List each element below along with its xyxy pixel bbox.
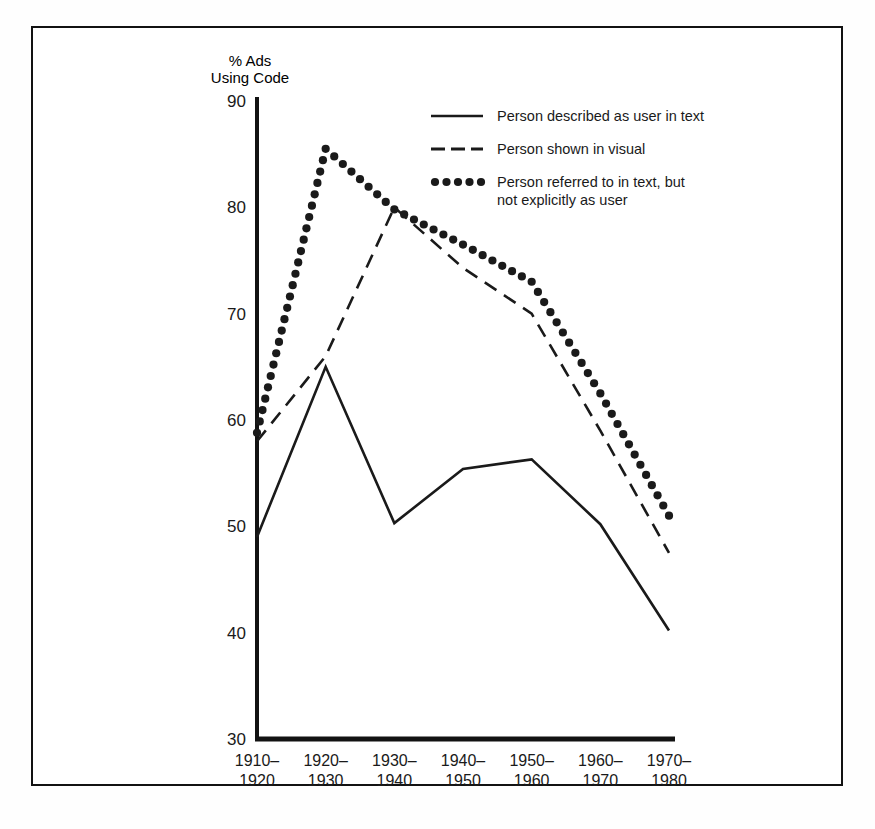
series-dot — [429, 225, 437, 233]
series-dot — [420, 220, 428, 228]
figure-frame: % Ads Using Code 30405060708090 1910–192… — [31, 26, 843, 786]
y-tick-50: 50 — [227, 517, 246, 536]
legend-label: not explicitly as user — [497, 192, 628, 208]
series-dot — [261, 395, 269, 403]
series-dot — [400, 210, 408, 218]
series-dot — [665, 512, 673, 520]
series-dot — [559, 328, 567, 336]
plot-canvas: % Ads Using Code 30405060708090 1910–192… — [33, 28, 845, 788]
x-tick-label-line: 1920– — [303, 752, 348, 769]
x-tick-0: 1910–1920 — [235, 752, 280, 788]
x-tick-label-line: 1930– — [372, 752, 417, 769]
series-dot — [508, 267, 516, 275]
series-1-dashed — [257, 207, 669, 553]
series-dot — [291, 270, 299, 278]
legend-dot — [442, 178, 450, 186]
chart-legend: Person described as user in textPerson s… — [431, 108, 704, 208]
series-dot — [648, 481, 656, 489]
series-dot — [280, 315, 288, 323]
series-dot — [278, 326, 286, 334]
series-dot — [390, 205, 398, 213]
series-dot — [347, 167, 355, 175]
y-axis-title: % Ads Using Code — [211, 52, 289, 86]
series-dot — [294, 258, 302, 266]
series-dot — [653, 491, 661, 499]
series-dot — [631, 450, 639, 458]
y-tick-90: 90 — [227, 92, 246, 111]
y-axis-title-line2: Using Code — [211, 69, 289, 86]
legend-dot — [454, 178, 462, 186]
x-tick-label-line: 1940 — [377, 772, 413, 788]
series-dot — [469, 246, 477, 254]
series-dot — [449, 235, 457, 243]
series-dot — [322, 145, 330, 153]
x-tick-label-line: 1950 — [445, 772, 481, 788]
legend-dot — [465, 178, 473, 186]
series-dot — [498, 262, 506, 270]
series-dot — [267, 372, 275, 380]
legend-label: Person shown in visual — [497, 141, 645, 157]
x-tick-4: 1950–1960 — [509, 752, 554, 788]
y-axis-title-line1: % Ads — [229, 52, 272, 69]
y-tick-80: 80 — [227, 198, 246, 217]
x-tick-label-line: 1910– — [235, 752, 280, 769]
series-dot — [364, 183, 372, 191]
series-dot — [459, 240, 467, 248]
series-dot — [297, 247, 305, 255]
figure-caption-cutoff — [33, 812, 733, 828]
series-dot — [330, 152, 338, 160]
series-dot — [602, 400, 610, 408]
series-dot — [608, 410, 616, 418]
series-dot — [528, 278, 536, 286]
series-dot — [540, 298, 548, 306]
legend-entry-1: Person shown in visual — [431, 141, 645, 157]
x-tick-label-line: 1960 — [514, 772, 550, 788]
series-dot — [275, 338, 283, 346]
series-dot — [311, 190, 319, 198]
series-dot — [571, 349, 579, 357]
x-tick-label-line: 1930 — [308, 772, 344, 788]
series-dot — [382, 198, 390, 206]
series-dot — [269, 361, 277, 369]
series-dot — [373, 190, 381, 198]
x-tick-1: 1920–1930 — [303, 752, 348, 788]
series-dot — [439, 230, 447, 238]
series-dot — [339, 160, 347, 168]
series-dot — [410, 215, 418, 223]
series-dot — [272, 349, 280, 357]
x-tick-3: 1940–1950 — [441, 752, 486, 788]
series-dot — [590, 379, 598, 387]
legend-entry-2: Person referred to in text, butnot expli… — [431, 174, 685, 208]
x-axis-tick-labels: 1910–19201920–19301930–19401940–19501950… — [235, 752, 692, 788]
x-tick-label-line: 1920 — [239, 772, 275, 788]
x-tick-label-line: 1970– — [647, 752, 692, 769]
series-dot — [613, 420, 621, 428]
x-tick-6: 1970–1980 — [647, 752, 692, 788]
legend-dot — [431, 178, 439, 186]
x-tick-label-line: 1950– — [509, 752, 554, 769]
series-dot — [534, 288, 542, 296]
x-tick-label-line: 1940– — [441, 752, 486, 769]
series-dot — [319, 156, 327, 164]
line-chart: % Ads Using Code 30405060708090 1910–192… — [33, 28, 845, 788]
series-dot — [659, 501, 667, 509]
series-dot — [300, 236, 308, 244]
y-tick-70: 70 — [227, 305, 246, 324]
series-dot — [286, 292, 294, 300]
y-tick-30: 30 — [227, 730, 246, 749]
y-tick-60: 60 — [227, 411, 246, 430]
legend-dot — [477, 178, 485, 186]
y-tick-40: 40 — [227, 624, 246, 643]
series-dot — [625, 440, 633, 448]
x-tick-label-line: 1960– — [578, 752, 623, 769]
series-dot — [642, 471, 650, 479]
series-dot — [305, 213, 313, 221]
y-axis-tick-labels: 30405060708090 — [227, 92, 246, 749]
series-dot — [289, 281, 297, 289]
series-dot — [553, 318, 561, 326]
series-dot — [636, 461, 644, 469]
series-dot — [264, 383, 272, 391]
series-dot — [256, 417, 264, 425]
series-dot — [596, 389, 604, 397]
x-tick-5: 1960–1970 — [578, 752, 623, 788]
